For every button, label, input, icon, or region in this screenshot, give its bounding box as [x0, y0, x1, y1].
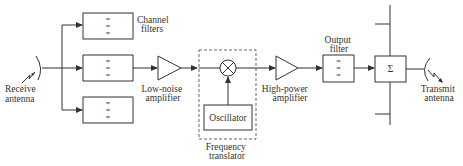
- svg-text:≈≈≈: ≈≈≈: [336, 57, 341, 78]
- summer-label: Σ: [388, 64, 394, 74]
- channel-filter-1: ≈≈≈: [83, 13, 133, 39]
- receive-antenna-icon: [22, 56, 41, 83]
- low-noise-amplifier-icon: [158, 56, 181, 80]
- input-bus: [42, 25, 82, 110]
- svg-text:≈≈≈: ≈≈≈: [105, 57, 110, 78]
- channel-filter-2: ≈≈≈: [83, 55, 133, 81]
- transmit-antenna-label: Transmit antenna: [421, 84, 457, 103]
- frequency-translator-label: Frequency translator: [206, 142, 248, 161]
- high-power-amplifier-icon: [276, 56, 298, 80]
- high-power-amplifier-label: High-power amplifier: [262, 84, 310, 103]
- svg-text:≈≈≈: ≈≈≈: [105, 15, 110, 36]
- low-noise-amplifier-label: Low-noise amplifier: [141, 84, 184, 103]
- mixer-icon: [220, 60, 236, 76]
- channel-filter-3: ≈≈≈: [83, 97, 133, 123]
- output-filter: ≈≈≈: [323, 55, 354, 82]
- transponder-diagram: Receive antenna ≈≈≈ ≈≈≈ ≈≈≈ Channel filt…: [0, 0, 463, 166]
- receive-antenna-label: Receive antenna: [5, 84, 38, 104]
- output-filter-label: Output filter: [325, 35, 354, 54]
- channel-filters-label: Channel filters: [137, 15, 171, 34]
- transmit-antenna-icon: [424, 58, 443, 83]
- svg-text:≈≈≈: ≈≈≈: [105, 99, 110, 120]
- oscillator-label: Oscillator: [209, 113, 247, 123]
